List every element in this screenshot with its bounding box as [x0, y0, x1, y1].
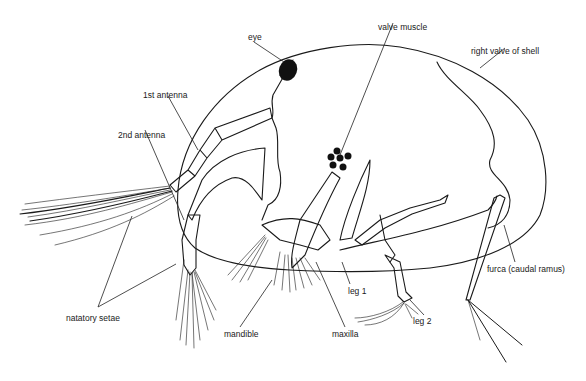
leg2-setae [355, 302, 418, 325]
mouthpart-setae [228, 235, 320, 292]
furca-setae [468, 300, 522, 362]
leader-mandible [240, 280, 272, 327]
crustacean-drawing [0, 0, 586, 381]
leader-setae-b [98, 264, 176, 307]
label-furca: furca (caudal ramus) [487, 265, 565, 274]
leader-leg1 [342, 262, 350, 284]
leader-2nd-antenna [145, 130, 184, 220]
mandible-blade [292, 172, 340, 268]
diagram-canvas: eye valve muscle right valve of shell 1s… [0, 0, 586, 381]
leader-leg2 [410, 300, 424, 315]
label-valve-muscle: valve muscle [378, 23, 427, 32]
natatory-setae-lower [176, 260, 216, 348]
second-antenna [188, 148, 265, 220]
posterior-body [437, 62, 510, 228]
leg2 [385, 255, 412, 302]
leader-setae-a [98, 216, 132, 307]
leg1 [355, 195, 448, 245]
label-1st-antenna: 1st antenna [143, 91, 187, 100]
valve-muscle-cluster [328, 148, 352, 171]
leg1-mid [380, 215, 395, 262]
label-natatory-setae: natatory setae [66, 314, 120, 323]
first-antenna [170, 108, 272, 192]
label-2nd-antenna: 2nd antenna [118, 131, 165, 140]
label-eye: eye [248, 33, 262, 42]
leader-eye [254, 42, 284, 62]
leader-1st-antenna [168, 96, 198, 150]
body-outline [262, 60, 293, 220]
label-maxilla: maxilla [332, 330, 358, 339]
abdomen-line [340, 196, 497, 250]
natatory-setae-left [20, 186, 174, 245]
leader-furca [504, 225, 515, 262]
label-mandible: mandible [224, 330, 259, 339]
label-leg2: leg 2 [413, 317, 431, 326]
leader-valve-muscle [340, 23, 393, 155]
label-leg1: leg 1 [348, 287, 366, 296]
second-antenna-ramus [182, 215, 200, 275]
maxilla-blade [340, 160, 370, 240]
label-right-valve: right valve of shell [471, 47, 539, 56]
